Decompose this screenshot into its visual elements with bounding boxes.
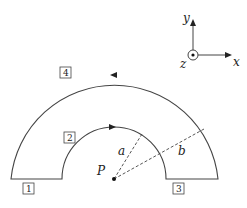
x-axis-label: x: [233, 55, 240, 69]
segment-3-label: 3: [173, 183, 184, 194]
svg-text:2: 2: [67, 133, 73, 143]
outer-arc-arrow-icon: [110, 72, 117, 78]
svg-text:3: 3: [176, 184, 182, 194]
svg-text:1: 1: [26, 184, 32, 194]
point-p-label: P: [96, 164, 106, 178]
segment-1-label: 1: [23, 183, 34, 194]
y-axis-label: y: [182, 11, 190, 25]
current-loop-diagram: P a b 1 2 3 4 x y z: [0, 0, 247, 208]
radius-a-label: a: [118, 144, 125, 158]
segment-4-label: 4: [60, 67, 71, 78]
svg-text:4: 4: [63, 68, 69, 78]
x-axis-arrow-icon: [225, 52, 232, 58]
z-axis-label: z: [179, 57, 187, 71]
inner-arc-arrow-icon: [109, 124, 116, 130]
radius-b-line: [114, 129, 204, 179]
diagram-canvas: P a b 1 2 3 4 x y z: [0, 0, 247, 208]
segment-2-label: 2: [64, 132, 75, 143]
current-loop: [11, 85, 218, 179]
radius-b-label: b: [178, 144, 186, 158]
coordinate-axes: x y z: [179, 11, 240, 71]
point-p-dot: [112, 177, 116, 181]
y-axis-arrow-icon: [190, 19, 196, 26]
